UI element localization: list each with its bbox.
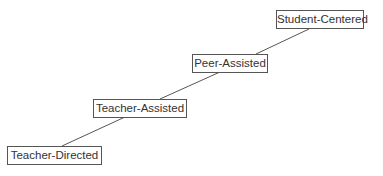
connector-directed-assisted bbox=[62, 117, 125, 146]
step-label: Teacher-Directed bbox=[11, 149, 99, 161]
step-label: Student-Centered bbox=[277, 13, 368, 25]
step-peer-assisted: Peer-Assisted bbox=[192, 54, 268, 73]
step-teacher-assisted: Teacher-Assisted bbox=[93, 99, 187, 118]
connector-assisted-peer bbox=[160, 72, 220, 99]
step-teacher-directed: Teacher-Directed bbox=[7, 146, 102, 165]
connector-peer-student bbox=[256, 29, 309, 54]
step-student-centered: Student-Centered bbox=[276, 10, 364, 29]
step-label: Peer-Assisted bbox=[194, 57, 266, 69]
step-label: Teacher-Assisted bbox=[96, 102, 184, 114]
